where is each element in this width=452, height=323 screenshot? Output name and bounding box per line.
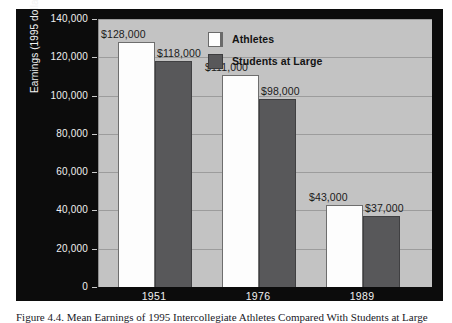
bar-1989-athletes — [326, 205, 363, 287]
legend-label: Athletes — [232, 34, 274, 45]
bar-1976-students — [259, 99, 296, 287]
bar-1951-athletes — [118, 42, 155, 287]
bar-1951-students — [155, 61, 192, 287]
legend-item-athletes: Athletes — [208, 31, 322, 48]
y-tick-mark — [92, 249, 97, 250]
y-tick-mark — [92, 96, 97, 97]
y-tick-label: 20,000 — [16, 244, 88, 254]
bar-1989-students — [363, 216, 400, 287]
y-tick-mark — [92, 210, 97, 211]
y-tick-mark — [92, 19, 97, 20]
legend-swatch-icon — [208, 32, 223, 47]
bar-value-label: $43,000 — [309, 192, 348, 203]
figure-caption: Figure 4.4. Mean Earnings of 1995 Interc… — [16, 311, 436, 323]
y-tick-label: 140,000 — [16, 14, 88, 24]
y-tick-mark — [92, 172, 97, 173]
y-tick-label: 60,000 — [16, 167, 88, 177]
legend-label: Students at Large — [232, 56, 322, 67]
bar-value-label: $128,000 — [101, 29, 146, 40]
figure-container: Earnings (1995 dollars) 020,00040,00060,… — [0, 0, 452, 323]
chart-legend: AthletesStudents at Large — [208, 31, 322, 75]
y-tick-label: 100,000 — [16, 91, 88, 101]
x-tick-label-1989: 1989 — [311, 291, 413, 302]
y-tick-label: 0 — [16, 282, 88, 292]
gridline — [99, 19, 432, 20]
y-tick-label: 80,000 — [16, 129, 88, 139]
legend-item-students-at-large: Students at Large — [208, 53, 322, 70]
bar-value-label: $118,000 — [157, 48, 201, 59]
bar-1976-athletes — [222, 75, 259, 287]
bar-value-label: $98,000 — [261, 86, 300, 97]
legend-swatch-icon — [208, 54, 223, 69]
bar-value-label: $37,000 — [365, 203, 404, 214]
y-tick-mark — [92, 134, 97, 135]
x-tick-label-1951: 1951 — [103, 291, 205, 302]
y-tick-label: 40,000 — [16, 205, 88, 215]
x-tick-label-1976: 1976 — [207, 291, 309, 302]
y-tick-mark — [92, 287, 97, 288]
y-tick-mark — [92, 57, 97, 58]
y-tick-label: 120,000 — [16, 52, 88, 62]
chart-panel: Earnings (1995 dollars) 020,00040,00060,… — [16, 9, 443, 301]
